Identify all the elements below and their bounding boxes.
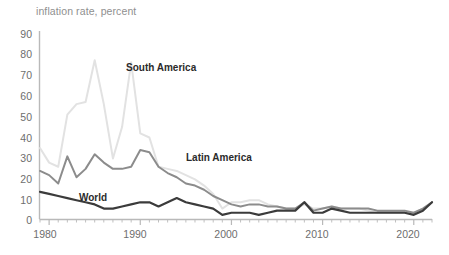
series-line-south-america [40,60,432,212]
series-label-latin-america: Latin America [186,152,252,163]
line-chart-plot [0,0,449,255]
y-tick-70: 70 [6,69,32,81]
y-tick-60: 60 [6,90,32,102]
y-tick-80: 80 [6,48,32,60]
x-tick-2020: 2020 [385,228,431,240]
y-tick-0: 0 [6,214,32,226]
y-tick-20: 20 [6,173,32,185]
x-tick-1990: 1990 [112,228,158,240]
y-tick-10: 10 [6,194,32,206]
series-label-south-america: South America [126,62,196,73]
x-tick-2000: 2000 [203,228,249,240]
chart-root: inflation rate, percent 90 80 70 60 50 4… [0,0,449,255]
y-tick-90: 90 [6,28,32,40]
x-tick-2010: 2010 [294,228,340,240]
y-tick-40: 40 [6,132,32,144]
y-tick-50: 50 [6,111,32,123]
y-tick-30: 30 [6,152,32,164]
series-label-world: World [79,192,107,203]
x-tick-1980: 1980 [22,228,68,240]
